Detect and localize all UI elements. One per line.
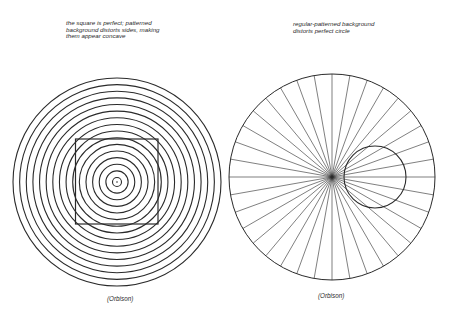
concentric-circles-figure	[13, 78, 221, 286]
radial-center	[331, 176, 334, 179]
center-dot	[116, 181, 118, 183]
radial-lines-figure	[229, 74, 435, 280]
left-figure-credit: (Orbison)	[107, 295, 133, 302]
right-figure-credit: (Orbison)	[318, 292, 344, 299]
illusion-figures	[0, 0, 449, 317]
